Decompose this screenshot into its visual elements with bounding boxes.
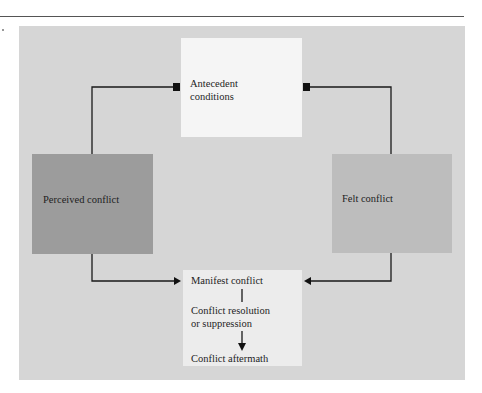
arrowhead-left-icon xyxy=(304,277,311,285)
square-marker-left-icon xyxy=(173,83,180,91)
edge-felt-manifest xyxy=(310,253,391,281)
connectors xyxy=(0,0,482,393)
edge-antecedent-perceived xyxy=(92,87,174,154)
arrowhead-right-icon xyxy=(174,277,181,285)
edge-antecedent-felt xyxy=(310,87,391,154)
square-marker-right-icon xyxy=(303,83,310,91)
arrowhead-down-icon xyxy=(238,343,246,351)
edge-perceived-manifest xyxy=(92,254,175,281)
